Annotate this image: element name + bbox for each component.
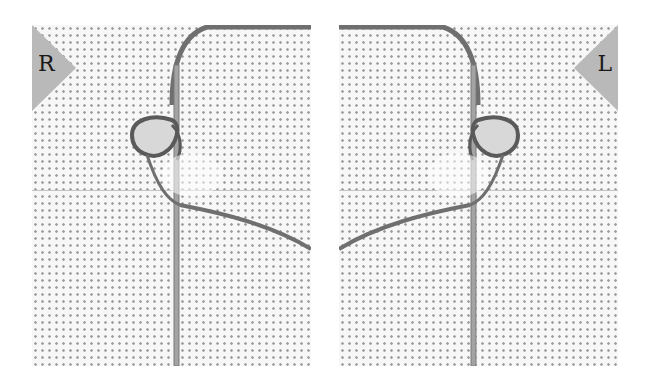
panel-right-handed: R [32, 25, 311, 366]
label-l: L [597, 53, 612, 75]
label-r: R [38, 53, 55, 75]
panel-left-handed: L [339, 25, 618, 366]
needle-and-thread-illustration-mirrored [339, 25, 618, 366]
needle-and-thread-illustration [32, 25, 311, 366]
